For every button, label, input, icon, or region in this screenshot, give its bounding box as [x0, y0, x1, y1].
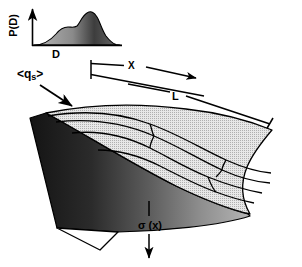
qs-open: <q [17, 67, 31, 81]
inset-plot [32, 9, 122, 46]
x-dim-line-upper-left [91, 64, 124, 66]
qs-pointer-arrow [40, 85, 72, 106]
sigma-label: σ (x) [138, 220, 162, 231]
x-dim-line-lower [91, 75, 204, 97]
base-wedge [57, 228, 118, 250]
x-dimension [91, 60, 204, 96]
l-dimension-label: L [172, 91, 179, 102]
inset-x-axis-label: D [52, 49, 60, 60]
distribution-area [34, 12, 120, 45]
inset-y-axis-label: P(D) [8, 4, 19, 48]
mean-surface-height-label: <qs> [17, 68, 43, 82]
scientific-figure: P(D) D <qs> X L σ (x) [0, 0, 302, 267]
x-dimension-label: X [128, 61, 135, 71]
x-dim-line-upper-right [146, 67, 196, 78]
qs-close: > [36, 67, 43, 81]
